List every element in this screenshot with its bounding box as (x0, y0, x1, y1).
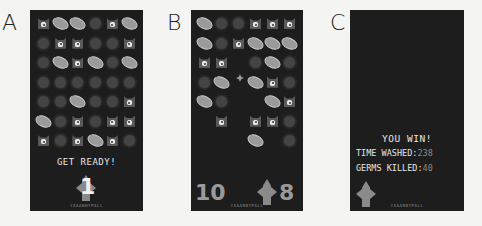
grid-cell (281, 73, 298, 93)
score-right: 8 (279, 180, 294, 205)
bean-germ-icon (85, 132, 105, 149)
eye-germ-icon (267, 116, 278, 127)
grid-cell (69, 92, 86, 112)
grid-cell (69, 34, 86, 54)
eye-germ-icon (199, 57, 210, 68)
grid-cell (104, 131, 121, 151)
figure-label-b: B (167, 12, 181, 34)
bean-germ-icon (262, 54, 282, 71)
grid-cell (196, 131, 213, 151)
spiky-germ-icon (216, 18, 227, 29)
empty-germ-icon (267, 135, 278, 146)
empty-germ-icon (233, 96, 244, 107)
grid-cell (69, 53, 86, 73)
grid-cell (52, 34, 69, 54)
grid-cell (196, 14, 213, 34)
eye-germ-icon (72, 116, 83, 127)
grid-cell (264, 73, 281, 93)
grid-cell (35, 34, 52, 54)
germs-killed-label: GERMS KILLED: (356, 163, 423, 173)
grid-cell (35, 131, 52, 151)
bean-germ-icon (51, 15, 71, 32)
figure-label-a: A (2, 12, 17, 34)
spiky-germ-icon (38, 77, 49, 88)
grid-cell (247, 73, 264, 93)
germ-grid (196, 14, 298, 151)
grid-cell (52, 131, 69, 151)
grid-cell (213, 131, 230, 151)
grid-cell (35, 73, 52, 93)
eye-germ-icon (107, 116, 118, 127)
grid-cell (281, 131, 298, 151)
grid-cell (230, 53, 247, 73)
grid-cell (35, 92, 52, 112)
empty-germ-icon (233, 57, 244, 68)
eye-germ-icon (55, 38, 66, 49)
grid-cell (86, 34, 103, 54)
grid-cell (281, 112, 298, 132)
germ-grid (35, 14, 138, 151)
bean-germ-icon (194, 35, 214, 52)
bean-germ-icon (279, 35, 299, 52)
spiky-germ-icon (107, 96, 118, 107)
spiky-germ-icon (90, 18, 101, 29)
time-washed-value: 238 (417, 148, 432, 158)
grid-cell (213, 53, 230, 73)
bean-germ-icon (245, 74, 265, 91)
time-washed-stat: TIME WASHED:238 (356, 148, 433, 158)
eye-germ-icon (284, 18, 295, 29)
grid-cell (264, 53, 281, 73)
spiky-germ-icon (107, 57, 118, 68)
time-washed-label: TIME WASHED: (356, 148, 417, 158)
eye-germ-icon (267, 18, 278, 29)
game-screen-playing: 10 8 YAAANNYPALL (191, 10, 303, 211)
grid-cell (247, 112, 264, 132)
score-left: 10 (195, 180, 226, 205)
grid-cell (35, 112, 52, 132)
germs-killed-value: 40 (423, 163, 433, 173)
grid-cell (35, 14, 52, 34)
spiky-germ-icon (55, 135, 66, 146)
spiky-germ-icon (90, 77, 101, 88)
eye-germ-icon (216, 57, 227, 68)
bean-germ-icon (194, 15, 214, 32)
grid-cell (69, 73, 86, 93)
spiky-germ-icon (38, 57, 49, 68)
eye-germ-icon (72, 57, 83, 68)
grid-cell (196, 53, 213, 73)
grid-cell (230, 112, 247, 132)
eye-germ-icon (72, 38, 83, 49)
grid-cell (52, 73, 69, 93)
germs-killed-stat: GERMS KILLED:40 (356, 163, 433, 173)
grid-cell (264, 34, 281, 54)
grid-cell (52, 14, 69, 34)
eye-germ-icon (124, 38, 135, 49)
grid-cell (104, 14, 121, 34)
spiky-germ-icon (55, 96, 66, 107)
grid-cell (86, 112, 103, 132)
footer-text: YAAANNYPALL (191, 203, 303, 208)
spiky-germ-icon (38, 38, 49, 49)
empty-germ-icon (199, 135, 210, 146)
footer-text: YAAANNYPALL (350, 203, 464, 208)
bean-germ-icon (119, 15, 139, 32)
grid-cell (104, 92, 121, 112)
spiky-germ-icon (107, 38, 118, 49)
eye-germ-icon (107, 135, 118, 146)
spiky-germ-icon (55, 116, 66, 127)
get-ready-message: GET READY! (30, 157, 143, 167)
grid-cell (86, 131, 103, 151)
grid-cell (247, 14, 264, 34)
eye-germ-icon (124, 116, 135, 127)
grid-cell (213, 34, 230, 54)
grid-cell (86, 14, 103, 34)
grid-cell (281, 34, 298, 54)
eye-germ-icon (38, 135, 49, 146)
grid-cell (86, 53, 103, 73)
spiky-germ-icon (284, 77, 295, 88)
bean-germ-icon (51, 54, 71, 71)
grid-cell (196, 34, 213, 54)
bean-germ-icon (211, 74, 231, 91)
grid-cell (196, 73, 213, 93)
grid-cell (121, 14, 138, 34)
